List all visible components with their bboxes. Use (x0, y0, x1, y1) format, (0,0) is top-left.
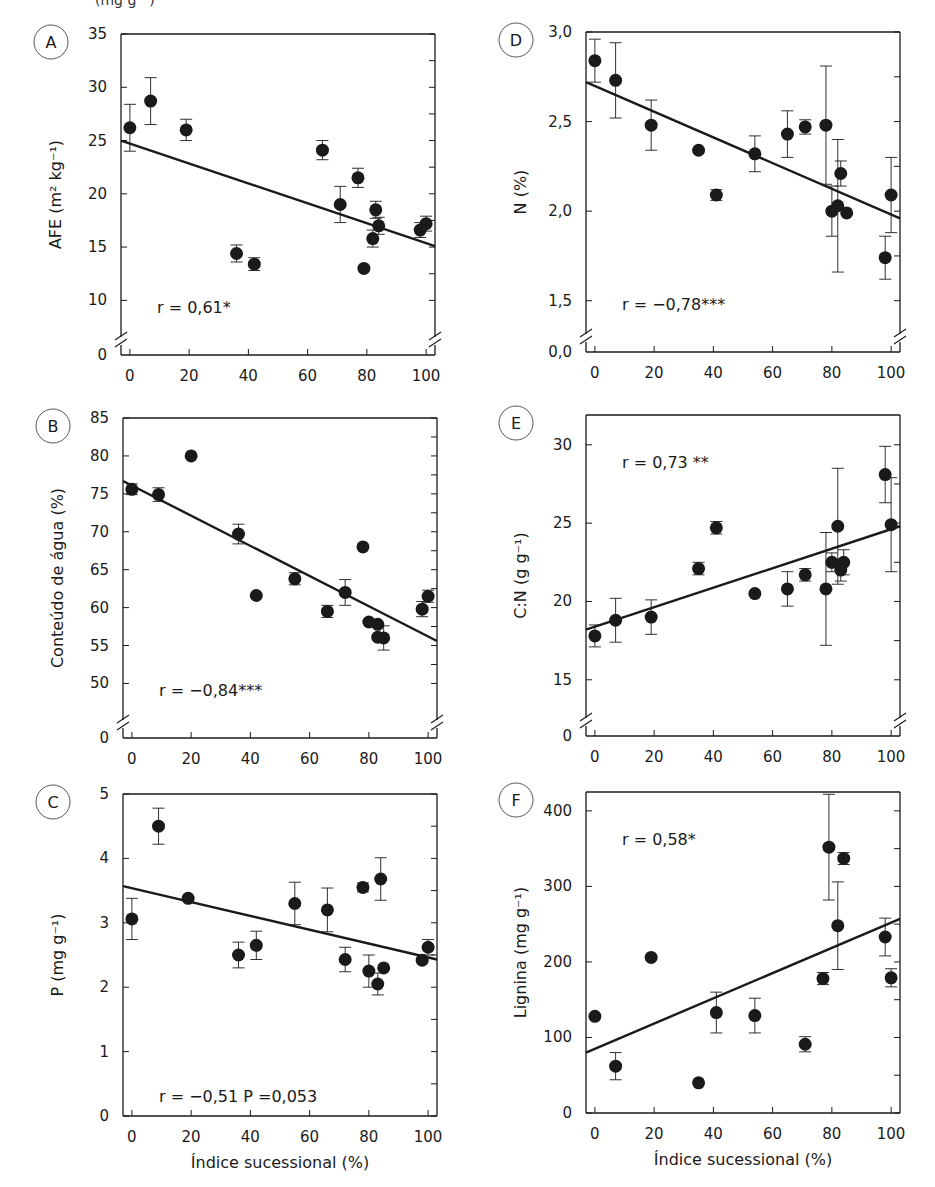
x-tick-label: 100 (412, 367, 441, 385)
y-tick-label: 80 (90, 447, 109, 465)
panel-f: 0100200300400Lignina (mg g⁻¹)02040608010… (499, 783, 905, 1169)
y-tick-label: 400 (543, 802, 572, 820)
x-tick-label: 80 (357, 367, 376, 385)
panel-d: 0,01,52,02,53,0N (%)020406080100Dr = −0,… (499, 23, 906, 382)
data-point (230, 245, 243, 262)
y-tick-label: 4 (99, 849, 109, 867)
data-point (125, 898, 138, 939)
y-axis-label: P (mg g⁻¹) (48, 913, 67, 996)
y-axis: 1,52,02,53,0 (548, 23, 900, 310)
data-point (152, 808, 165, 844)
y-tick-label: 55 (90, 637, 109, 655)
x-tick-label: 100 (877, 364, 906, 382)
x-tick-label: 20 (645, 748, 664, 766)
data-point (748, 136, 761, 172)
x-tick-label: 0 (590, 748, 600, 766)
x-tick-label: 100 (414, 1128, 443, 1146)
data-point (374, 858, 387, 901)
data-point (339, 580, 352, 606)
regression-line (123, 481, 437, 641)
data-point (416, 602, 429, 617)
data-point (334, 186, 347, 222)
correlation-annotation: r = −0,78*** (622, 295, 725, 314)
data-point (152, 488, 165, 502)
y-tick-label: 65 (90, 561, 109, 579)
svg-text:F: F (511, 791, 520, 810)
data-point (250, 589, 263, 602)
data-point (799, 120, 812, 134)
x-tick-label: 20 (645, 364, 664, 382)
data-point (710, 521, 723, 534)
plot-frame (123, 794, 437, 1116)
data-point (816, 972, 829, 985)
x-tick-label: 60 (763, 748, 782, 766)
svg-text:A: A (46, 33, 57, 52)
y-tick-label: 20 (88, 185, 107, 203)
data-point (799, 1037, 812, 1052)
x-axis-label: Índice sucessional (%) (191, 1153, 369, 1172)
y-tick-label: 3,0 (548, 23, 572, 41)
x-tick-label: 80 (822, 748, 841, 766)
panel-e: 015202530C:N (g g⁻¹)020406080100Er = 0,7… (499, 406, 906, 766)
panel-label-badge: E (499, 406, 533, 440)
y-tick-label: 3 (99, 914, 109, 932)
y-tick-label: 2 (99, 978, 109, 996)
data-point (248, 258, 261, 271)
data-point (371, 618, 384, 631)
panel-label-badge: B (36, 409, 70, 443)
data-point (609, 43, 622, 118)
x-tick-label: 0 (127, 1128, 137, 1146)
x-axis-label: Índice sucessional (%) (654, 1150, 832, 1169)
x-tick-label: 20 (182, 1128, 201, 1146)
x-tick-label: 0 (127, 750, 137, 768)
correlation-annotation: r = 0,73 ** (622, 453, 709, 472)
y-axis-label: C:N (g g⁻¹) (511, 532, 530, 618)
y-tick-label: 70 (90, 523, 109, 541)
data-point (316, 141, 329, 160)
data-point (250, 931, 263, 959)
data-points (125, 449, 434, 650)
data-point (357, 262, 370, 275)
data-point (422, 940, 435, 955)
panel-a: 0101520253035AFE (m² kg⁻¹)020406080100Ar… (34, 25, 441, 385)
data-point (834, 161, 847, 186)
y-tick-label: 30 (88, 78, 107, 96)
y-tick-label-zero: 0,0 (548, 343, 572, 361)
data-point (840, 206, 853, 219)
data-point (356, 881, 369, 894)
x-tick-label: 60 (763, 1125, 782, 1143)
data-point (182, 892, 195, 905)
data-point (351, 168, 364, 187)
data-point (822, 794, 835, 900)
data-point (321, 605, 334, 618)
data-point (356, 540, 369, 553)
plot-frame: 0 (97, 34, 441, 364)
data-point (748, 587, 761, 600)
y-tick-label: 0 (562, 1104, 572, 1122)
data-point (710, 189, 723, 202)
data-point (321, 888, 334, 932)
x-tick-label: 40 (704, 1125, 723, 1143)
data-point (692, 144, 705, 157)
x-tick-label: 40 (239, 367, 258, 385)
svg-text:C: C (47, 793, 58, 812)
y-tick-label: 30 (553, 436, 572, 454)
data-point (609, 1053, 622, 1080)
correlation-annotation: r = −0,51 P =0,053 (159, 1087, 317, 1106)
x-tick-label: 80 (359, 750, 378, 768)
data-point (422, 590, 435, 603)
regression-line (586, 919, 900, 1053)
y-axis-label: N (%) (511, 170, 530, 215)
y-tick-label: 50 (90, 674, 109, 692)
data-point (232, 942, 245, 968)
data-point (180, 119, 193, 140)
correlation-annotation: r = −0,84*** (159, 681, 262, 700)
figure-grid: 0101520253035AFE (m² kg⁻¹)020406080100Ar… (0, 0, 935, 1187)
data-points (123, 78, 432, 275)
data-point (372, 217, 385, 234)
panel-c: 012345P (mg g⁻¹)020406080100Índice suces… (36, 785, 442, 1172)
x-tick-label: 60 (300, 750, 319, 768)
data-point (831, 882, 844, 970)
x-tick-label: 40 (704, 748, 723, 766)
data-points (125, 808, 434, 995)
